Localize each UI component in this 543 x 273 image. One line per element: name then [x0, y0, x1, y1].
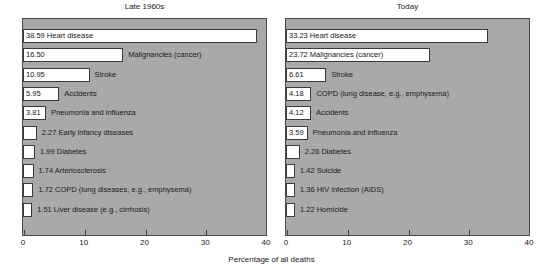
- bar-label: 1.36 HIV infection (AIDS): [300, 183, 384, 197]
- bar-value: 3.81: [26, 106, 41, 120]
- bar-row: 1.42 Suicide: [286, 164, 529, 178]
- x-axis-tick: [85, 230, 86, 235]
- bar[interactable]: [23, 126, 37, 140]
- x-axis-tick: [287, 230, 288, 235]
- bar-row: 1.74 Arteriosclerosis: [23, 164, 266, 178]
- bar-label: 33.23 Heart disease: [289, 29, 356, 43]
- bar-row: 16.50Malignancies (cancer): [23, 48, 266, 62]
- bar-row: 2.26 Diabetes: [286, 145, 529, 159]
- bar[interactable]: [23, 203, 32, 217]
- bar-row: 23.72 Malignancies (cancer): [286, 48, 529, 62]
- chart-figure: Major causes of death Late 1960s 38.59 H…: [0, 0, 543, 273]
- bar-label: 1.22 Homicide: [300, 203, 348, 217]
- bar-row: 1.99 Diabetes: [23, 145, 266, 159]
- bar-row: 5.95Accidents: [23, 87, 266, 101]
- bar-value: 6.61: [289, 68, 304, 82]
- bar-label: Accidents: [64, 87, 97, 101]
- bar-label: 38.59 Heart disease: [26, 29, 93, 43]
- bar-value: 3.59: [289, 126, 304, 140]
- bar-row: 6.61Stroke: [286, 68, 529, 82]
- bar-label: Pneumonia and influenza: [51, 106, 136, 120]
- x-axis-tick: [348, 230, 349, 235]
- bar-value: 4.12: [289, 106, 304, 120]
- x-axis-tick-label: 40: [256, 238, 276, 247]
- panel-title: Late 1960s: [22, 2, 267, 11]
- plot-area: 33.23 Heart disease23.72 Malignancies (c…: [285, 18, 530, 236]
- bar-label: 1.99 Diabetes: [40, 145, 86, 159]
- bar-row: 4.12Accidents: [286, 106, 529, 120]
- bar-row: 33.23 Heart disease: [286, 29, 529, 43]
- bar-row: 3.81Pneumonia and influenza: [23, 106, 266, 120]
- bar-label: Stroke: [331, 68, 353, 82]
- chart-panel-today: Today 33.23 Heart disease23.72 Malignanc…: [285, 18, 530, 236]
- bar-label: Malignancies (cancer): [128, 48, 201, 62]
- bar-value: 10.95: [26, 68, 45, 82]
- x-axis-tick-label: 0: [13, 238, 33, 247]
- bar[interactable]: [286, 145, 300, 159]
- bar-label: 1.42 Suicide: [300, 164, 341, 178]
- bar-label: COPD (lung disease, e.g., emphysema): [316, 87, 449, 101]
- bar-label: 2.26 Diabetes: [305, 145, 351, 159]
- x-axis-tick: [469, 230, 470, 235]
- bar[interactable]: [23, 145, 35, 159]
- bar-label: 1.72 COPD (lung diseases, e.g., emphysem…: [38, 183, 191, 197]
- x-axis-tick: [146, 230, 147, 235]
- x-axis-tick-label: 0: [276, 238, 296, 247]
- bar[interactable]: [286, 183, 295, 197]
- plot-area: 38.59 Heart disease16.50Malignancies (ca…: [22, 18, 267, 236]
- bar-row: 1.51 Liver disease (e.g., cirrhosis): [23, 203, 266, 217]
- bar-label: 1.74 Arteriosclerosis: [39, 164, 107, 178]
- x-axis-tick: [206, 230, 207, 235]
- x-axis-tick-label: 20: [135, 238, 155, 247]
- x-axis-tick-label: 30: [458, 238, 478, 247]
- bar[interactable]: [286, 203, 295, 217]
- bar-label: Accidents: [316, 106, 349, 120]
- bar-label: 2.27 Early infancy diseases: [42, 126, 133, 140]
- bar-value: 4.18: [289, 87, 304, 101]
- bar-value: 16.50: [26, 48, 45, 62]
- x-axis-tick-label: 10: [337, 238, 357, 247]
- bar-row: 2.27 Early infancy diseases: [23, 126, 266, 140]
- x-axis-tick-label: 40: [519, 238, 539, 247]
- bar-label: 1.51 Liver disease (e.g., cirrhosis): [37, 203, 150, 217]
- bar[interactable]: [286, 164, 295, 178]
- bar-row: 1.22 Homicide: [286, 203, 529, 217]
- bar-value: 5.95: [26, 87, 41, 101]
- bar-row: 1.72 COPD (lung diseases, e.g., emphysem…: [23, 183, 266, 197]
- x-axis-tick: [409, 230, 410, 235]
- bar-label: 23.72 Malignancies (cancer): [289, 48, 383, 62]
- x-axis-tick-label: 30: [195, 238, 215, 247]
- bar-row: 38.59 Heart disease: [23, 29, 266, 43]
- x-axis-tick: [24, 230, 25, 235]
- bar-row: 4.18COPD (lung disease, e.g., emphysema): [286, 87, 529, 101]
- bar-row: 3.59Pneumonia and influenza: [286, 126, 529, 140]
- x-axis-tick-label: 10: [74, 238, 94, 247]
- bar-label: Stroke: [95, 68, 117, 82]
- x-axis-tick-label: 20: [398, 238, 418, 247]
- bar[interactable]: [23, 183, 33, 197]
- bar-label: Pneumonia and influenza: [313, 126, 398, 140]
- bar-row: 10.95Stroke: [23, 68, 266, 82]
- chart-panel-late-1960s: Late 1960s 38.59 Heart disease16.50Malig…: [22, 18, 267, 236]
- bar[interactable]: [23, 164, 34, 178]
- bar-row: 1.36 HIV infection (AIDS): [286, 183, 529, 197]
- x-axis-title: Percentage of all deaths: [0, 255, 543, 264]
- panel-title: Today: [285, 2, 530, 11]
